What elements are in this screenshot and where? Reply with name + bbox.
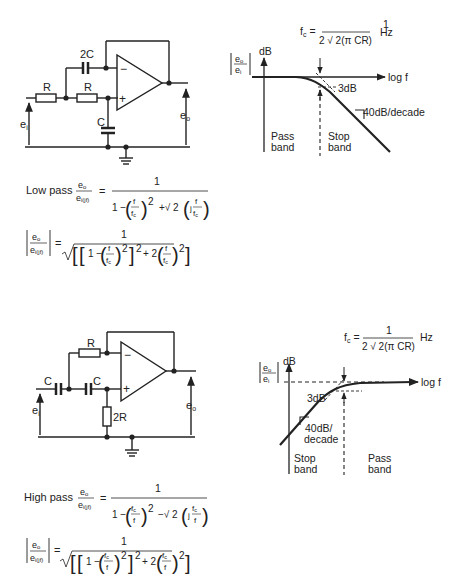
svg-text:fc: fc: [193, 209, 198, 218]
y-label-den: ei: [263, 374, 269, 384]
svg-text:=: =: [55, 237, 61, 249]
band-right-2: band: [328, 141, 352, 153]
formula-title: High pass: [24, 491, 73, 503]
svg-text:(: (: [181, 505, 188, 527]
svg-text:=: =: [100, 492, 106, 504]
label-2r: 2R: [113, 411, 127, 423]
label-c2: C: [93, 375, 101, 387]
svg-text:): ): [202, 505, 209, 527]
label-minus: −: [120, 62, 127, 76]
fc-formula-label: fc=: [300, 25, 316, 38]
resistor-r1-icon: [36, 94, 56, 102]
svg-text:fc: fc: [162, 551, 167, 560]
x-axis-label: log f: [388, 71, 408, 83]
highpass-circuit: [36, 332, 196, 456]
svg-text:f: f: [164, 563, 167, 572]
svg-text:+ 2: + 2: [142, 556, 157, 567]
svg-text:eo: eo: [80, 487, 89, 497]
svg-text:f: f: [194, 516, 197, 525]
svg-text:): ): [172, 244, 179, 266]
label-r: R: [87, 337, 95, 349]
svg-text:+√ 2: +√ 2: [159, 202, 179, 213]
svg-text:f: f: [133, 516, 136, 525]
label-plus: +: [123, 382, 130, 396]
svg-text:eo: eo: [32, 232, 41, 242]
label-ei: ei: [32, 404, 40, 417]
y-label-num: eo: [263, 363, 272, 373]
svg-text:f: f: [165, 244, 168, 253]
svg-text:f: f: [108, 244, 111, 253]
svg-text:f: f: [195, 197, 198, 206]
svg-text:fc: fc: [163, 256, 168, 265]
svg-text:2: 2: [122, 243, 128, 254]
svg-text:): ): [114, 552, 121, 574]
slope-label-2: decade: [304, 433, 339, 445]
svg-text:[: [: [77, 552, 83, 574]
drop-label: 3dB: [338, 82, 357, 94]
svg-text:ei(jf): ei(jf): [78, 500, 91, 510]
fc-formula-den: 2 √ 2(π CR): [319, 35, 372, 46]
svg-text:=: =: [54, 544, 60, 556]
band-left-2: band: [271, 141, 295, 153]
svg-text:]: ]: [185, 552, 191, 574]
lowpass-formula: Low pass eo ei(jf) = 1 1 − ( f fc ) 2 +√…: [26, 175, 210, 266]
svg-text:j: j: [187, 511, 190, 520]
fc-formula-den: 2 √ 2(π CR): [362, 341, 415, 352]
svg-text:ei(jf): ei(jf): [76, 193, 89, 203]
svg-text:]: ]: [128, 552, 134, 574]
label-c: C: [97, 116, 105, 128]
svg-text:]: ]: [185, 244, 191, 266]
lowpass-graph: fc= 1 2 √ 2(π CR) Hz eo ei dB lo: [231, 18, 425, 156]
ground-icon: [119, 158, 133, 164]
svg-text:[: [: [79, 244, 85, 266]
label-r1: R: [43, 81, 51, 93]
y-label-num: eo: [235, 54, 244, 64]
svg-text:[: [: [70, 552, 76, 574]
svg-text:f: f: [133, 197, 136, 206]
highpass-graph: fc= 1 2 √ 2(π CR) Hz eo ei dB: [260, 324, 441, 475]
svg-text:): ): [203, 198, 210, 220]
label-2c: 2C: [80, 48, 94, 60]
svg-text:eo: eo: [78, 180, 87, 190]
slope-label: 40dB/decade: [363, 106, 425, 118]
svg-text:1: 1: [121, 228, 127, 240]
svg-text:−√ 2: −√ 2: [158, 509, 178, 520]
response-curve: [280, 382, 413, 445]
y-unit: dB: [259, 45, 272, 57]
svg-text:]: ]: [129, 244, 135, 266]
svg-text:): ): [141, 505, 148, 527]
highpass-formula: High pass eo ei(jf) = 1 1 − ( fc f ) 2 −…: [24, 482, 209, 574]
svg-text:(: (: [183, 198, 190, 220]
svg-text:fc: fc: [192, 504, 197, 513]
fc-formula-unit: Hz: [420, 331, 433, 343]
resistor-r-icon: [79, 349, 100, 357]
svg-text:=: =: [99, 185, 105, 197]
label-eo: eo: [186, 399, 196, 412]
svg-text:ei(jf): ei(jf): [30, 553, 43, 563]
label-r2: R: [84, 81, 92, 93]
svg-text:2: 2: [148, 196, 154, 207]
svg-text:fc: fc: [131, 504, 136, 513]
resistor-r2-icon: [77, 94, 97, 102]
svg-text:2: 2: [148, 503, 154, 514]
filter-diagram: 2C R R C − + ei eo fc= 1 2 √ 2(π CR) Hz …: [0, 0, 455, 575]
svg-text:): ): [115, 244, 122, 266]
resistor-2r-icon: [103, 407, 111, 426]
y-label-den: ei: [235, 65, 241, 75]
svg-text:1: 1: [121, 535, 127, 547]
svg-text:ei(jf): ei(jf): [30, 245, 43, 255]
label-eo: eo: [180, 109, 190, 122]
fc-formula-num: 1: [386, 324, 392, 336]
x-axis-label: log f: [421, 376, 441, 388]
fc-formula-unit: Hz: [380, 26, 393, 38]
svg-text:[: [: [72, 244, 78, 266]
svg-text:): ): [172, 552, 179, 574]
svg-text:fc: fc: [104, 551, 109, 560]
svg-text:+ 2: + 2: [143, 248, 158, 259]
svg-text:fc: fc: [106, 256, 111, 265]
svg-text:2: 2: [121, 550, 127, 561]
svg-text:1: 1: [155, 482, 161, 494]
label-plus: +: [119, 92, 126, 106]
ground-icon: [125, 450, 139, 456]
label-ei: ei: [20, 118, 28, 131]
